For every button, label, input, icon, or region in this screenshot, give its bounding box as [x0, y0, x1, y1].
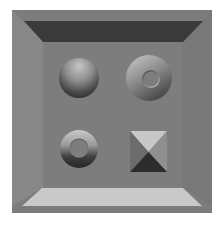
ring-shape — [60, 130, 98, 168]
bevel-top — [24, 21, 203, 42]
bevel-bottom — [22, 188, 202, 206]
pyramid-shape — [130, 131, 167, 172]
bevel-left — [12, 10, 43, 206]
scene-canvas — [0, 0, 224, 230]
torus-shape — [126, 55, 172, 101]
beveled-frame-illustration — [0, 0, 224, 230]
bevel-right — [183, 10, 212, 206]
sphere-shape — [59, 58, 99, 98]
